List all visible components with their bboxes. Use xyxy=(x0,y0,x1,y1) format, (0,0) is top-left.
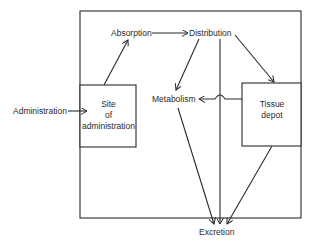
label-administration: Administration xyxy=(13,106,67,116)
arrow-site-to-absorption xyxy=(104,40,128,85)
tissue-depot-label: Tissue depot xyxy=(242,99,302,121)
label-absorption: Absorption xyxy=(111,28,152,38)
arrow-metabolism-to-excretion xyxy=(178,108,214,224)
site-line-3: administration xyxy=(80,121,137,132)
site-line-2: of xyxy=(80,110,137,121)
site-of-administration-label: Site of administration xyxy=(80,99,137,132)
tissue-line-2: depot xyxy=(242,110,302,121)
label-distribution: Distribution xyxy=(189,28,232,38)
tissue-line-1: Tissue xyxy=(242,99,302,110)
label-metabolism: Metabolism xyxy=(152,94,195,104)
diagram-canvas xyxy=(0,0,311,245)
label-excretion: Excretion xyxy=(199,227,234,237)
site-line-1: Site xyxy=(80,99,137,110)
arrow-tissue-to-excretion xyxy=(227,146,272,224)
arrow-distribution-to-tissue xyxy=(235,35,274,82)
arrow-distribution-to-metabolism xyxy=(176,39,199,90)
